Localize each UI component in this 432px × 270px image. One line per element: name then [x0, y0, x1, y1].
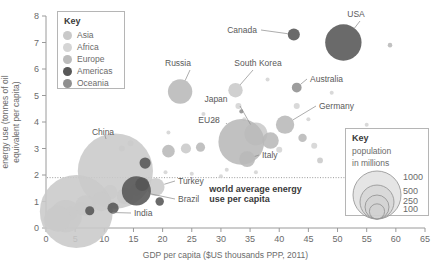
- y-tick-label: 1: [34, 197, 39, 207]
- world-average-annotation: world average energy use per capita: [209, 184, 302, 205]
- x-axis-title: GDP per capita ($US thousands PPP, 2011): [143, 250, 309, 260]
- bubble-label-brazil: Brazil: [178, 194, 199, 204]
- legend-item-label: Europe: [77, 54, 104, 64]
- x-tick-label: 65: [420, 234, 430, 244]
- x-tick-label: 45: [303, 234, 313, 244]
- bubble-label-japan: Japan: [204, 94, 227, 104]
- legend-population-subtitle-2: in millions: [352, 158, 423, 169]
- x-tick-label: 50: [333, 234, 343, 244]
- bubble: [235, 103, 241, 109]
- bubble: [155, 197, 163, 205]
- x-tick-label: 25: [187, 234, 197, 244]
- x-tick-label: 0: [43, 234, 48, 244]
- world-average-line-2: use per capita: [209, 194, 302, 205]
- legend-swatch-icon: [63, 55, 72, 64]
- bubble-label-china: China: [92, 127, 114, 137]
- legend-item-label: Asia: [77, 30, 94, 40]
- population-key-label: 100: [403, 204, 418, 214]
- bubble-germany: [276, 115, 294, 133]
- x-tick-label: 20: [158, 234, 168, 244]
- bubble: [266, 78, 270, 82]
- bubble: [254, 170, 258, 174]
- bubble-label-germany: Germany: [319, 101, 355, 111]
- population-key-circle-100: [369, 204, 384, 219]
- bubble: [166, 131, 170, 135]
- bubble: [140, 157, 151, 168]
- bubble-chart: 05101520253035404550556065012345678 USAC…: [0, 0, 432, 270]
- legend-item-label: Oceania: [77, 78, 109, 88]
- legend-population-subtitle-1: population: [352, 146, 423, 157]
- bubble: [294, 103, 300, 109]
- y-tick-label: 3: [34, 144, 39, 154]
- x-tick-label: 60: [391, 234, 401, 244]
- bubble: [330, 91, 334, 95]
- legend-item-africa[interactable]: Africa: [63, 41, 119, 53]
- legend-swatch-icon: [63, 67, 72, 76]
- bubble-label-australia: Australia: [310, 74, 343, 84]
- bubble-label-south-korea: South Korea: [234, 58, 282, 68]
- x-tick-label: 15: [128, 234, 138, 244]
- bubble-australia: [292, 83, 302, 93]
- y-tick-label: 0: [34, 223, 39, 233]
- y-tick-label: 4: [34, 117, 39, 127]
- bubble-canada: [288, 29, 300, 41]
- y-tick-label: 6: [34, 64, 39, 74]
- y-tick-label: 8: [34, 11, 39, 21]
- population-key-label: 500: [403, 186, 418, 196]
- legend-population: Key population in millions 1000500250100: [345, 128, 429, 216]
- legend-item-asia[interactable]: Asia: [63, 29, 119, 41]
- bubble: [196, 143, 205, 152]
- legend-item-oceania[interactable]: Oceania: [63, 77, 119, 89]
- legend-item-label: Americas: [77, 66, 112, 76]
- y-tick-label: 5: [34, 91, 39, 101]
- bubble: [298, 134, 306, 142]
- bubble-italy: [239, 151, 255, 167]
- bubble-south-korea: [228, 83, 242, 97]
- y-axis-title: energy use (tonnes of oil: [0, 75, 10, 168]
- legend-continents: Key AsiaAfricaEuropeAmericasOceania: [57, 11, 125, 89]
- x-tick-label: 40: [274, 234, 284, 244]
- bubble-label-russia: Russia: [165, 58, 191, 68]
- bubble-label-canada: Canada: [227, 25, 257, 35]
- legend-item-americas[interactable]: Americas: [63, 65, 119, 77]
- bubble-label-italy: Italy: [262, 150, 278, 160]
- legend-population-title: Key: [352, 133, 423, 143]
- world-average-line-1: world average energy: [209, 184, 302, 195]
- y-axis-title: equivalent per capita): [11, 81, 21, 162]
- legend-swatch-icon: [63, 31, 72, 40]
- x-tick-label: 35: [245, 234, 255, 244]
- legend-item-label: Africa: [77, 42, 99, 52]
- y-tick-label: 7: [34, 38, 39, 48]
- x-tick-label: 30: [216, 234, 226, 244]
- population-size-key: 1000500250100: [351, 169, 425, 221]
- bubble-label-india: India: [134, 208, 153, 218]
- bubble-usa: [325, 24, 361, 60]
- bubble: [365, 123, 369, 127]
- bubble: [85, 206, 94, 215]
- y-tick-label: 2: [34, 170, 39, 180]
- bubble: [262, 132, 279, 149]
- bubble-label-eu28: EU28: [198, 115, 220, 125]
- bubble: [317, 158, 323, 164]
- bubble: [181, 143, 191, 153]
- legend-swatch-icon: [63, 79, 72, 88]
- bubble-russia: [168, 79, 192, 103]
- legend-item-europe[interactable]: Europe: [63, 53, 119, 65]
- x-tick-label: 55: [362, 234, 372, 244]
- bubble: [164, 170, 168, 174]
- bubble: [311, 143, 317, 149]
- bubble: [135, 177, 149, 191]
- bubble: [306, 117, 310, 121]
- bubble: [388, 43, 393, 48]
- bubble: [162, 145, 175, 158]
- bubble-label-turkey: Turkey: [178, 176, 204, 186]
- bubble-label-usa: USA: [347, 9, 365, 19]
- bubble: [45, 206, 71, 232]
- population-key-label: 1000: [403, 172, 423, 182]
- legend-swatch-icon: [63, 43, 72, 52]
- bubble: [225, 168, 229, 172]
- bubble: [219, 174, 223, 178]
- bubble: [107, 203, 118, 214]
- legend-continents-title: Key: [64, 16, 119, 26]
